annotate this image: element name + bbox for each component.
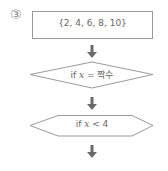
decision-2-text: if x < 4 xyxy=(30,119,154,129)
down-arrow-icon xyxy=(87,97,97,110)
set-box-text: {2, 4, 6, 8, 10} xyxy=(32,18,153,28)
decision-1-text: if x = 짝수 xyxy=(30,68,154,81)
down-arrow-icon xyxy=(87,145,97,158)
down-arrow-icon xyxy=(87,45,97,58)
